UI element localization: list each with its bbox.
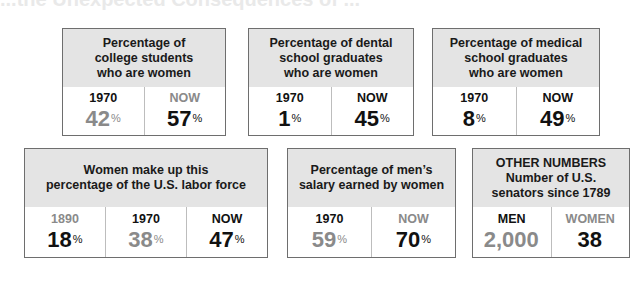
stat-cell-now: NOW 49% xyxy=(516,87,600,135)
stat-value: 49% xyxy=(540,107,575,131)
stat-box-salary: Percentage of men’s salary earned by wom… xyxy=(287,148,456,258)
stat-box-college-students: Percentage of college students who are w… xyxy=(62,28,226,136)
stat-label: NOW xyxy=(357,91,388,106)
stat-box-senators: OTHER NUMBERS Number of U.S. senators si… xyxy=(472,148,630,258)
stat-cell-women: WOMEN 38 xyxy=(551,207,630,257)
stat-box-title: Percentage of college students who are w… xyxy=(63,29,225,87)
stat-label: 1890 xyxy=(51,212,79,227)
cropped-header-text: ...the Unexpected Consequences of ... xyxy=(0,0,639,10)
stat-box-dental-graduates: Percentage of dental school graduates wh… xyxy=(248,28,414,136)
stat-label: 1970 xyxy=(276,91,304,106)
stat-cell-now: NOW 47% xyxy=(186,207,267,257)
stat-cell-1970: 1970 42% xyxy=(63,87,144,135)
stat-box-labor-force: Women make up this percentage of the U.S… xyxy=(24,148,268,258)
stat-value: 42% xyxy=(86,107,121,131)
stat-label: NOW xyxy=(169,91,200,106)
stat-cell-1890: 1890 18% xyxy=(25,207,105,257)
stat-box-title: Percentage of medical school graduates w… xyxy=(433,29,599,87)
stat-cell-now: NOW 70% xyxy=(371,207,455,257)
stat-label: 1970 xyxy=(132,212,160,227)
stat-label: NOW xyxy=(212,212,243,227)
stat-label: 1970 xyxy=(89,91,117,106)
stat-cell-1970: 1970 38% xyxy=(105,207,186,257)
stat-value: 8% xyxy=(463,107,486,131)
stat-box-title: Percentage of men’s salary earned by wom… xyxy=(288,149,455,207)
stat-cell-men: MEN 2,000 xyxy=(473,207,551,257)
stat-box-title: OTHER NUMBERS Number of U.S. senators si… xyxy=(473,149,629,207)
stat-box-medical-graduates: Percentage of medical school graduates w… xyxy=(432,28,600,136)
stat-value: 38 xyxy=(578,228,603,252)
stat-cell-1970: 1970 59% xyxy=(288,207,371,257)
stat-label: WOMEN xyxy=(566,212,615,227)
stat-label: 1970 xyxy=(460,91,488,106)
stat-value: 47% xyxy=(209,228,244,252)
stat-label: NOW xyxy=(542,91,573,106)
stat-value: 38% xyxy=(128,228,163,252)
stat-cell-1970: 1970 8% xyxy=(433,87,516,135)
stat-label: MEN xyxy=(498,212,526,227)
stat-box-title: Percentage of dental school graduates wh… xyxy=(249,29,413,87)
stat-value: 70% xyxy=(396,228,431,252)
stat-value: 59% xyxy=(312,228,347,252)
stat-cell-now: NOW 57% xyxy=(144,87,226,135)
stat-label: NOW xyxy=(398,212,429,227)
stat-box-title: Women make up this percentage of the U.S… xyxy=(25,149,267,207)
stat-value: 2,000 xyxy=(484,228,540,252)
stat-label: 1970 xyxy=(316,212,344,227)
stat-value: 1% xyxy=(278,107,301,131)
stat-cell-now: NOW 45% xyxy=(331,87,414,135)
stat-value: 57% xyxy=(167,107,202,131)
stat-value: 45% xyxy=(355,107,390,131)
stat-cell-1970: 1970 1% xyxy=(249,87,331,135)
stat-value: 18% xyxy=(47,228,82,252)
